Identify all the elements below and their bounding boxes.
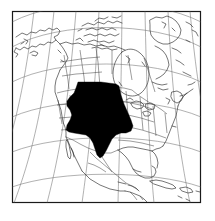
map-canvas	[0, 0, 215, 221]
locator-map-figure: North America locator map	[0, 0, 215, 221]
